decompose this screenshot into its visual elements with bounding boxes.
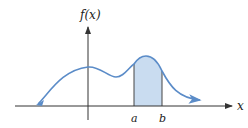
bound-label-a: a xyxy=(131,112,138,125)
y-axis-label: f(x) xyxy=(79,8,101,22)
area-under-curve-diagram: f(x) x a b xyxy=(0,0,248,128)
bound-label-b: b xyxy=(159,112,166,125)
function-curve xyxy=(38,56,200,104)
x-axis-label: x xyxy=(237,99,244,113)
